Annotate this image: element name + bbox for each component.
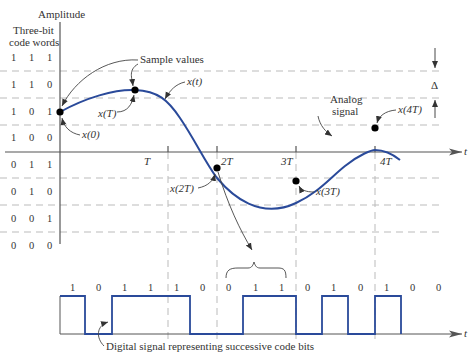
code-word-001: 001 xyxy=(11,213,52,224)
svg-text:1: 1 xyxy=(331,282,336,293)
svg-text:0: 0 xyxy=(358,282,363,293)
svg-text:0: 0 xyxy=(29,213,34,224)
svg-text:0: 0 xyxy=(226,282,231,293)
code-word-brace xyxy=(226,262,286,278)
svg-text:0: 0 xyxy=(29,106,34,117)
svg-text:1: 1 xyxy=(29,52,34,63)
code-word-000: 000 xyxy=(11,240,52,251)
analog-label-1: Analog xyxy=(330,93,363,105)
svg-text:1: 1 xyxy=(29,79,34,90)
sample-x4T xyxy=(371,124,378,131)
svg-text:1: 1 xyxy=(279,282,284,293)
sample-x2T xyxy=(213,164,220,171)
x-2T-label: x(2T) xyxy=(169,182,194,195)
time-axis-label: t xyxy=(464,145,468,157)
svg-text:1: 1 xyxy=(148,282,153,293)
svg-text:0: 0 xyxy=(305,282,310,293)
svg-text:0: 0 xyxy=(29,240,34,251)
svg-text:1: 1 xyxy=(47,106,52,117)
svg-text:0: 0 xyxy=(410,282,415,293)
code-word-011: 011 xyxy=(11,159,52,170)
sample-x3T xyxy=(292,177,299,184)
code-header-2: code words xyxy=(9,36,59,48)
x-T-label: x(T) xyxy=(97,107,117,120)
delta-label: Δ xyxy=(431,79,438,91)
svg-text:0: 0 xyxy=(11,186,16,197)
svg-text:1: 1 xyxy=(174,282,179,293)
x-0-label: x(0) xyxy=(81,128,100,141)
svg-text:1: 1 xyxy=(253,282,258,293)
x-t-label: x(t) xyxy=(186,75,203,88)
svg-text:1: 1 xyxy=(11,79,16,90)
digital-time-label: t xyxy=(464,327,468,339)
sample-x0 xyxy=(56,108,63,115)
svg-text:1: 1 xyxy=(384,282,389,293)
svg-text:0: 0 xyxy=(11,213,16,224)
sample-values-label: Sample values xyxy=(140,53,204,65)
svg-text:1: 1 xyxy=(122,282,127,293)
svg-text:1: 1 xyxy=(29,159,34,170)
code-word-010: 010 xyxy=(11,186,52,197)
svg-text:0: 0 xyxy=(436,282,441,293)
svg-text:1: 1 xyxy=(47,213,52,224)
svg-text:1: 1 xyxy=(29,186,34,197)
svg-text:1: 1 xyxy=(70,282,75,293)
svg-text:0: 0 xyxy=(47,79,52,90)
svg-text:0: 0 xyxy=(29,132,34,143)
sample-xT xyxy=(131,86,138,93)
svg-text:0: 0 xyxy=(11,159,16,170)
code-word-111: 111 xyxy=(11,52,52,63)
tick-4T: 4T xyxy=(380,155,393,167)
svg-text:0: 0 xyxy=(96,282,101,293)
digital-signal-waveform xyxy=(60,296,401,334)
svg-text:0: 0 xyxy=(11,240,16,251)
tick-T: T xyxy=(144,155,151,167)
x-3T-label: x(3T) xyxy=(315,185,340,198)
x-4T-label: x(4T) xyxy=(397,103,422,116)
code-word-100: 100 xyxy=(11,132,52,143)
tick-2T: 2T xyxy=(221,155,234,167)
svg-text:1: 1 xyxy=(47,159,52,170)
code-header-1: Three-bit xyxy=(13,24,54,36)
svg-text:1: 1 xyxy=(47,52,52,63)
svg-text:1: 1 xyxy=(11,52,16,63)
code-word-110: 110 xyxy=(11,79,52,90)
tick-3T: 3T xyxy=(280,155,294,167)
pcm-diagram: Amplitude Three-bit code words t T 2T 3T… xyxy=(0,0,470,356)
digital-caption: Digital signal representing successive c… xyxy=(106,340,314,352)
sample-time-grid xyxy=(168,152,375,340)
svg-text:0: 0 xyxy=(47,240,52,251)
svg-text:0: 0 xyxy=(47,186,52,197)
svg-text:1: 1 xyxy=(11,106,16,117)
svg-text:0: 0 xyxy=(47,132,52,143)
svg-text:1: 1 xyxy=(11,132,16,143)
code-word-101: 101 xyxy=(11,106,52,117)
digital-bit-labels: 1 0 1 1 1 0 0 1 1 0 1 0 1 0 0 xyxy=(70,282,441,293)
svg-text:0: 0 xyxy=(200,282,205,293)
analog-label-2: signal xyxy=(332,105,358,117)
amplitude-label: Amplitude xyxy=(38,8,85,20)
